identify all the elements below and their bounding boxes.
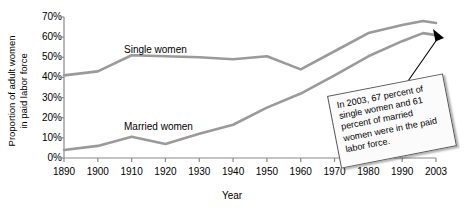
series-label-married-women: Married women bbox=[124, 121, 193, 132]
x-axis-title: Year bbox=[222, 190, 242, 201]
line-chart: Proportion of adult women in paid labor … bbox=[0, 0, 475, 219]
callout-text: In 2003, 67 percent of single women and … bbox=[336, 81, 447, 155]
series-label-single-women: Single women bbox=[124, 44, 187, 55]
series-line-single-women bbox=[64, 21, 436, 75]
